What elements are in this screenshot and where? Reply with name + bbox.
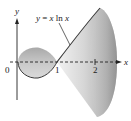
label-leader-line: [59, 23, 70, 45]
cone-rim: [90, 8, 117, 117]
eq-ln: ln: [54, 13, 66, 23]
x-axis-arrow-icon: [116, 60, 122, 64]
eq-equals: =: [40, 13, 50, 23]
eq-x2: x: [64, 13, 69, 23]
y-axis-arrow-icon: [15, 18, 19, 24]
tick-label-2: 2: [93, 65, 98, 75]
surface-of-revolution-diagram: y x 0 1 2 y = x ln x: [0, 0, 131, 121]
x-axis-label: x: [123, 57, 128, 67]
y-axis-label: y: [14, 6, 19, 16]
tick-label-0: 0: [5, 65, 10, 75]
tick-label-1: 1: [55, 65, 60, 75]
curve-equation-label: y = x ln x: [35, 13, 69, 23]
